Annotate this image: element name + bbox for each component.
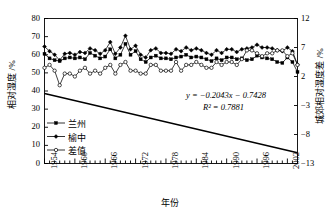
x-tick-label: 1978 [170, 152, 180, 169]
y2-tick-label: −8 [301, 129, 310, 139]
x-axis-label: 年份 [140, 196, 200, 209]
y-tick-label: 10 [18, 139, 40, 149]
y-tick-label: 50 [18, 67, 40, 77]
trend-r2-text: R² = 0.7881 [203, 102, 244, 112]
x-tick-label: 1984 [200, 152, 210, 169]
legend-item-label: 差值 [68, 144, 86, 157]
y-axis-label-left: 相对湿度 /% [5, 50, 18, 120]
y-tick-label: 60 [18, 49, 40, 59]
y-tick-label: 40 [18, 85, 40, 95]
y2-tick-label: 12 [301, 13, 310, 23]
x-tick-label: 1966 [109, 152, 119, 169]
trend-equation-text: y = −0.2043x − 0.7428 [186, 90, 266, 100]
y2-tick-label: −3 [301, 100, 310, 110]
y-tick-label: 30 [18, 103, 40, 113]
y-axis-label-right: 城郊相对湿度差 /% [313, 54, 326, 124]
x-tick-label: 1996 [261, 152, 271, 169]
chart-canvas [0, 0, 329, 216]
y-tick-label: 80 [18, 13, 40, 23]
chart-background [0, 0, 329, 216]
legend-item-label: 兰州 [68, 117, 86, 130]
y-tick-label: 70 [18, 31, 40, 41]
chart-figure: 相对湿度 /% 城郊相对湿度差 /% 年份 y = −0.2043x − 0.7… [0, 0, 329, 216]
x-tick-label: 1954 [49, 152, 59, 169]
x-tick-label: 1972 [140, 152, 150, 169]
y-tick-label: 0 [18, 158, 40, 168]
y2-tick-label: 7 [301, 42, 305, 52]
y-tick-label: 20 [18, 121, 40, 131]
y2-tick-label: −13 [301, 158, 314, 168]
legend-item-label: 榆中 [68, 131, 86, 144]
y2-tick-label: 2 [301, 71, 305, 81]
x-tick-label: 1990 [231, 152, 241, 169]
x-tick-label: 2002 [291, 152, 301, 169]
